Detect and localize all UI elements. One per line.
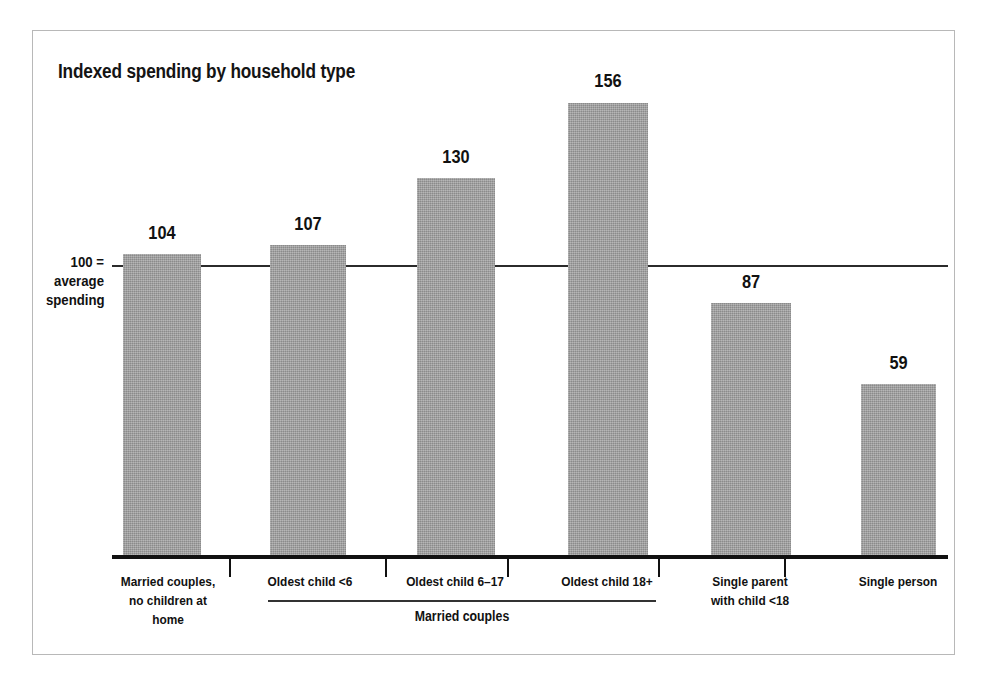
bar-value-label: 87 <box>717 271 786 293</box>
bar-value-label: 104 <box>128 222 195 244</box>
bar-oldest-child-under-6[interactable] <box>270 245 346 555</box>
bar-oldest-child-18-plus[interactable] <box>568 103 648 555</box>
reference-line-100 <box>112 265 948 267</box>
category-label-married-no-children: Married couples, no children at home <box>117 572 219 629</box>
reference-label-line-2: average <box>46 271 104 290</box>
category-label-oldest-child-18-plus: Oldest child 18+ <box>551 572 664 591</box>
bar-value-label: 156 <box>574 70 643 92</box>
reference-label-line-3: spending <box>46 290 104 309</box>
category-label-line-2: no children at home <box>117 591 219 629</box>
bar-value-label: 107 <box>275 213 340 235</box>
category-label-line-1: Oldest child <6 <box>255 572 364 591</box>
category-label-line-1: Married couples, <box>117 572 219 591</box>
category-label-oldest-child-under-6: Oldest child <6 <box>255 572 364 591</box>
x-axis-baseline <box>112 555 948 559</box>
category-label-line-1: Single person <box>847 572 949 591</box>
chart-figure: Indexed spending by household type 100 =… <box>0 0 985 695</box>
axis-tick <box>229 559 231 577</box>
bar-single-person[interactable] <box>861 384 936 555</box>
bar-married-no-children[interactable] <box>123 254 201 555</box>
reference-line-label: 100 = average spending <box>46 252 104 309</box>
bar-oldest-child-6-17[interactable] <box>417 178 495 555</box>
category-label-line-1: Oldest child 6–17 <box>398 572 512 591</box>
plot-area: 100 = average spending 104 107 130 156 8… <box>0 0 985 695</box>
bar-value-label: 59 <box>866 352 931 374</box>
category-label-line-2: with child <18 <box>699 591 801 610</box>
category-label-single-parent: Single parent with child <18 <box>699 572 801 610</box>
group-bracket-line <box>268 600 656 602</box>
category-label-line-1: Oldest child 18+ <box>551 572 664 591</box>
group-bracket-label: Married couples <box>291 608 632 624</box>
category-label-line-1: Single parent <box>699 572 801 591</box>
axis-tick <box>385 559 387 577</box>
reference-label-line-1: 100 = <box>46 252 104 271</box>
category-label-single-person: Single person <box>847 572 949 591</box>
bar-single-parent-child-under-18[interactable] <box>711 303 791 555</box>
bar-value-label: 130 <box>422 146 489 168</box>
category-label-oldest-child-6-17: Oldest child 6–17 <box>398 572 512 591</box>
